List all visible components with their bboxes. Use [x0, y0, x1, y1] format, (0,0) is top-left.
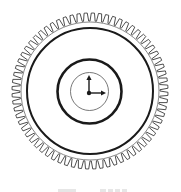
caption-glyph-fragment	[122, 189, 127, 192]
arrow-right-icon	[101, 90, 106, 95]
caption-glyph-fragment	[58, 189, 76, 192]
gear-teeth-outline	[12, 13, 168, 169]
gear-teeth	[12, 13, 168, 169]
figure-caption-cropped	[0, 184, 181, 192]
caption-glyph-fragment	[100, 189, 106, 192]
clock-pivot-dot	[87, 91, 91, 95]
caption-glyph-fragment	[115, 189, 120, 192]
caption-glyph-fragment	[108, 189, 113, 192]
arrow-up-icon	[86, 75, 91, 80]
gear-root-circle	[21, 22, 159, 160]
outer-thick-ring	[27, 28, 153, 154]
gear-clock-diagram	[0, 0, 181, 176]
